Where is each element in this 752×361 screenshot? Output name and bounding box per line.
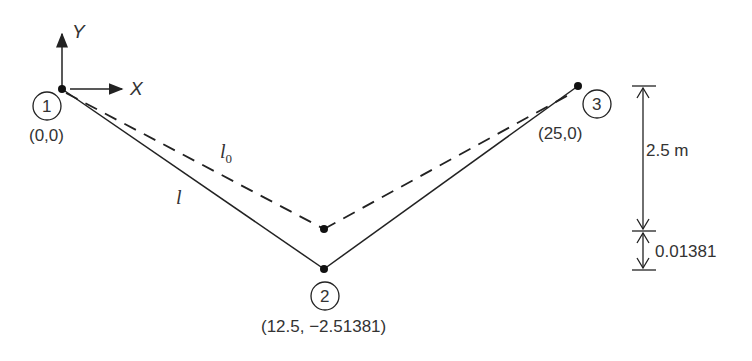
truss-diagram	[0, 0, 752, 361]
node-1-coord: (0,0)	[29, 127, 64, 144]
node-2-dot	[320, 265, 328, 273]
node-3-dot	[574, 82, 582, 90]
node-1-id: 1	[42, 98, 51, 115]
member-l-left	[62, 89, 324, 269]
node-3-coord: (25,0)	[538, 125, 582, 142]
x-axis-label: X	[130, 79, 143, 98]
member-l0-left	[66, 93, 324, 229]
node-3-id: 3	[592, 96, 601, 113]
y-axis-label: Y	[72, 22, 85, 41]
extra-dimension-label: 0.01381	[655, 243, 716, 260]
deformed-length-label: l	[176, 187, 182, 207]
node-2-id: 2	[320, 288, 329, 305]
node-2-coord: (12.5, −2.51381)	[261, 318, 386, 335]
member-l-right	[324, 86, 578, 269]
member-l0-right	[324, 92, 574, 229]
node-2-original-dot	[320, 225, 328, 233]
sag-dimension-label: 2.5 m	[646, 142, 689, 159]
original-length-label: l0	[220, 141, 232, 165]
node-1-dot	[58, 85, 66, 93]
